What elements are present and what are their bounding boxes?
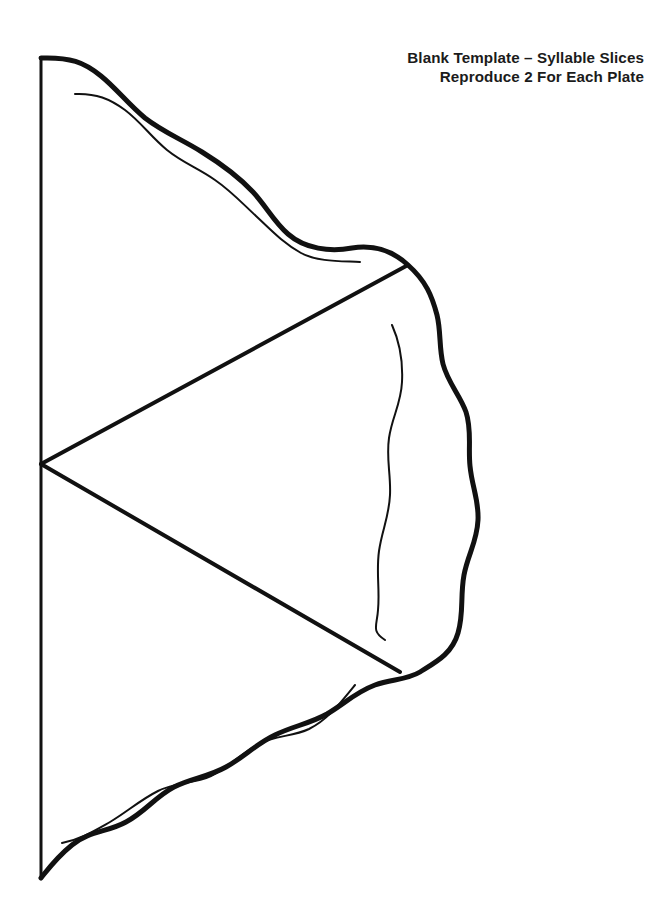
page-canvas: Blank Template – Syllable Slices Reprodu… <box>0 0 650 917</box>
crust-outline <box>41 58 478 878</box>
page-title-line-2: Reproduce 2 For Each Plate <box>407 67 644 86</box>
slice-divider-upper <box>41 265 408 464</box>
page-title: Blank Template – Syllable Slices Reprodu… <box>407 48 644 87</box>
inner-crust-line-upper <box>75 94 360 262</box>
inner-crust-line-lower <box>62 685 355 843</box>
inner-crust-line-middle <box>376 325 402 640</box>
slice-divider-lower <box>41 464 400 672</box>
pie-template-drawing <box>0 0 650 917</box>
page-title-line-1: Blank Template – Syllable Slices <box>407 48 644 67</box>
